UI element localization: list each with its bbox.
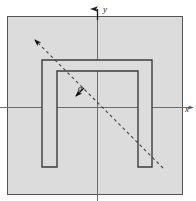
geometry-figure: y x α xyxy=(0,0,196,201)
angle-alpha-label: α xyxy=(78,83,83,93)
gray-plate xyxy=(8,17,183,195)
x-axis-label: x xyxy=(184,104,189,114)
figure-container: y x α xyxy=(0,0,196,201)
y-axis-label: y xyxy=(102,4,107,14)
